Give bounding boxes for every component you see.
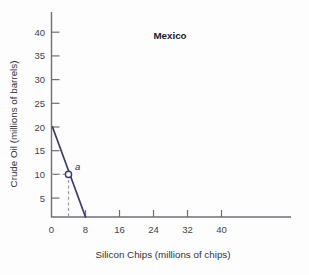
y-tick-label-10: 10 [34,169,45,180]
x-tick-label-40: 40 [216,224,227,235]
x-axis-title: Silicon Chips (millions of chips) [95,249,230,260]
chart-title: Mexico [153,30,186,41]
y-tick-label-30: 30 [34,74,45,85]
x-tick-label-16: 16 [114,224,125,235]
x-tick-label-8: 8 [83,224,88,235]
ppf-chart-svg: Mexico 40 35 30 25 20 15 10 5 [0,0,309,275]
y-tick-label-20: 20 [34,122,45,133]
y-tick-label-5: 5 [40,193,45,204]
data-point-a-label: a [75,161,80,172]
x-tick-label-32: 32 [182,224,193,235]
x-tick-label-0: 0 [49,224,54,235]
y-tick-label-15: 15 [34,145,45,156]
data-point-a-marker [65,171,71,177]
y-tick-label-40: 40 [34,27,45,38]
y-tick-label-35: 35 [34,50,45,61]
y-tick-label-25: 25 [34,98,45,109]
y-axis-title: Crude Oil (millions of barrels) [8,61,19,188]
chart-figure: Mexico 40 35 30 25 20 15 10 5 [0,0,309,275]
x-tick-label-24: 24 [148,224,159,235]
